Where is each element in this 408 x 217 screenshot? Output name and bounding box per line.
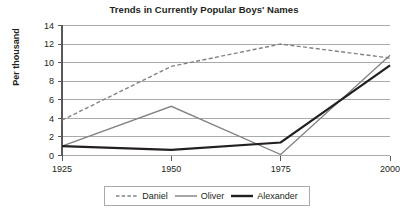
y-tick-label: 0 bbox=[49, 151, 54, 161]
chart-legend: Daniel Oliver Alexander bbox=[104, 186, 310, 206]
y-tick-label: 8 bbox=[49, 76, 54, 86]
series-line-daniel bbox=[62, 44, 390, 120]
legend-item-alexander[interactable]: Alexander bbox=[231, 191, 298, 201]
x-tick-label: 1950 bbox=[161, 164, 181, 174]
y-axis-ticks: 02468101214 bbox=[44, 21, 62, 161]
x-axis-ticks: 1925195019752000 bbox=[52, 156, 400, 174]
x-tick-label: 1925 bbox=[52, 164, 72, 174]
gridlines bbox=[62, 26, 390, 156]
data-series bbox=[62, 44, 390, 155]
x-tick-label: 2000 bbox=[380, 164, 400, 174]
y-tick-label: 4 bbox=[49, 114, 54, 124]
legend-label-oliver: Oliver bbox=[201, 191, 225, 201]
y-tick-label: 2 bbox=[49, 132, 54, 142]
y-tick-label: 12 bbox=[44, 39, 54, 49]
y-tick-label: 14 bbox=[44, 21, 54, 31]
legend-swatch-oliver bbox=[175, 192, 197, 200]
line-chart-plot: 02468101214 1925195019752000 bbox=[0, 0, 408, 217]
legend-label-alexander: Alexander bbox=[257, 191, 298, 201]
x-tick-label: 1975 bbox=[271, 164, 291, 174]
series-line-oliver bbox=[62, 55, 390, 154]
y-tick-label: 6 bbox=[49, 95, 54, 105]
legend-swatch-daniel bbox=[116, 192, 138, 200]
y-tick-label: 10 bbox=[44, 58, 54, 68]
legend-item-daniel[interactable]: Daniel bbox=[116, 191, 168, 201]
legend-label-daniel: Daniel bbox=[142, 191, 168, 201]
legend-item-oliver[interactable]: Oliver bbox=[175, 191, 225, 201]
chart-figure: Trends in Currently Popular Boys' Names … bbox=[0, 0, 408, 217]
legend-swatch-alexander bbox=[231, 192, 253, 200]
